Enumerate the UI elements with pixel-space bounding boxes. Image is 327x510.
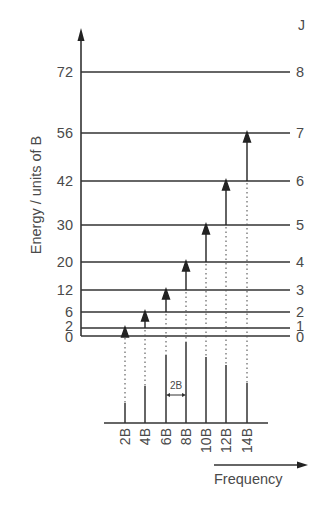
- spacing-label: 2B: [170, 380, 183, 391]
- j-4: 4: [296, 254, 304, 270]
- tick-56: 56: [57, 125, 73, 141]
- freq-8B: 8B: [178, 428, 194, 445]
- j-labels: 8 7 6 5 4 3 2 1 0: [296, 64, 304, 345]
- j-header: J: [298, 17, 305, 33]
- freq-10B: 10B: [198, 428, 214, 453]
- frequency-label: Frequency: [214, 471, 283, 487]
- j-6: 6: [296, 173, 304, 189]
- freq-6B: 6B: [158, 428, 174, 445]
- frequency-axis: Frequency: [214, 462, 308, 488]
- energy-tick-labels: 72 56 42 30 20 12 6 2 0: [57, 64, 73, 345]
- j-7: 7: [296, 125, 304, 141]
- frequency-tick-labels: 2B 4B 6B 8B 10B 12B 14B: [117, 428, 255, 453]
- axis-arrow-icon: [78, 28, 85, 41]
- spacing-indicator: 2B: [166, 380, 186, 397]
- tick-0: 0: [65, 329, 73, 345]
- energy-level-diagram: Energy / units of B J 72 56 42 30 20 12 …: [0, 0, 327, 510]
- tick-30: 30: [57, 217, 73, 233]
- j-8: 8: [296, 64, 304, 80]
- tick-12: 12: [57, 282, 73, 298]
- j-3: 3: [296, 282, 304, 298]
- j-0: 0: [296, 329, 304, 345]
- energy-levels: [81, 72, 290, 336]
- tick-72: 72: [57, 64, 73, 80]
- freq-2B: 2B: [117, 428, 133, 445]
- freq-12B: 12B: [218, 428, 234, 453]
- tick-20: 20: [57, 254, 73, 270]
- freq-14B: 14B: [239, 428, 255, 453]
- j-5: 5: [296, 217, 304, 233]
- y-axis-label: Energy / units of B: [28, 136, 44, 254]
- freq-4B: 4B: [137, 428, 153, 445]
- tick-42: 42: [57, 173, 73, 189]
- arrow-right-icon: [297, 462, 308, 469]
- spectrum: [104, 342, 268, 423]
